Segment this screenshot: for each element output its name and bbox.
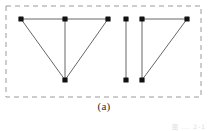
graph-node xyxy=(62,16,67,21)
graph-edge xyxy=(65,19,108,80)
figure-caption: (a) xyxy=(0,100,208,113)
graph-node xyxy=(62,77,67,82)
dashed-border-group xyxy=(6,6,201,97)
graph-edge xyxy=(142,19,187,80)
graph-node xyxy=(123,77,128,82)
graph-node xyxy=(139,16,144,21)
nodes-layer xyxy=(18,16,189,82)
graph-node xyxy=(184,16,189,21)
graph-node xyxy=(123,16,128,21)
graph-node xyxy=(139,77,144,82)
graph-node xyxy=(105,16,110,21)
corner-note-text: 图 ... 2-1 xyxy=(172,122,206,131)
graph-edge xyxy=(21,19,65,80)
figure-container: (a) 图 ... 2-1 xyxy=(0,0,208,131)
dashed-border-rect xyxy=(6,6,201,97)
graph-node xyxy=(18,16,23,21)
edges-layer xyxy=(21,19,187,80)
